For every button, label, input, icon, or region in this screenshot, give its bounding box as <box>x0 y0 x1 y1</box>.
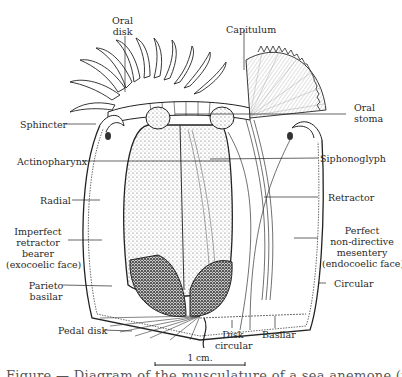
label-basilar: Basilar <box>262 329 296 340</box>
label-parieto-basilar: Parietobasilar <box>26 280 66 302</box>
label-pedal-disk: Pedal disk <box>58 325 107 336</box>
anemone-diagram: Oraldisk Capitulum Oralstoma Sphincter A… <box>0 0 402 377</box>
anemone-illustration <box>0 0 402 377</box>
label-circular: Circular <box>334 278 374 289</box>
label-oral-stoma: Oralstoma <box>354 102 383 124</box>
label-sphincter: Sphincter <box>20 119 67 130</box>
figure-caption-truncated: Figure — Diagram of the musculature of a… <box>0 369 402 377</box>
label-siphonoglyph: Siphonoglyph <box>320 153 386 164</box>
label-disk-circular: Diskcircular <box>215 329 251 351</box>
tentacle-fan-right <box>246 46 326 118</box>
tentacles-left <box>70 38 226 112</box>
label-actinopharynx: Actinopharynx <box>17 156 87 167</box>
label-retractor: Retractor <box>328 192 374 203</box>
label-radial: Radial <box>40 195 71 206</box>
label-imperfect-retractor-bearer: Imperfect retractor bearer (exocoelic fa… <box>6 226 70 270</box>
label-perfect-nondirective-mesentery: Perfect non-directive mesentery (endocoe… <box>322 225 402 269</box>
label-oral-disk: Oraldisk <box>112 15 133 37</box>
label-capitulum: Capitulum <box>226 24 276 35</box>
scale-bar-label: 1 cm. <box>155 353 245 364</box>
